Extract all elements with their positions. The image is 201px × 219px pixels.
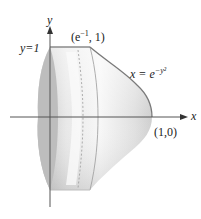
- curve-equation-exponent: −y²: [155, 66, 166, 75]
- y-equals-one-label: y=1: [20, 42, 39, 54]
- y-equals-one-text: y=1: [20, 41, 39, 55]
- solid-of-revolution-diagram: x y y=1 (e−1, 1) x = e−y² (1,0): [0, 0, 201, 219]
- y-axis-arrow-icon: [47, 26, 53, 34]
- curve-equation-label: x = e−y²: [130, 67, 166, 80]
- y-axis-label: y: [47, 14, 52, 26]
- top-point-exponent: −1: [80, 29, 89, 38]
- curve-equation-base: x = e: [130, 67, 155, 81]
- top-point-tail: , 1): [89, 30, 105, 44]
- x-axis-label: x: [191, 110, 196, 122]
- top-point-label: (e−1, 1): [71, 30, 105, 43]
- right-point-label: (1,0): [154, 126, 177, 138]
- top-point-base: (e: [71, 30, 80, 44]
- x-axis-arrow-icon: [180, 114, 188, 120]
